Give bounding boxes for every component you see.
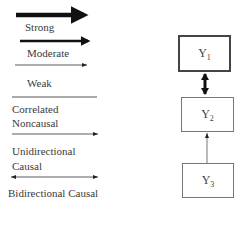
legend-label-correlated: Correlated — [12, 103, 58, 116]
node-y3-label: Y3 — [202, 173, 215, 189]
node-y2: Y2 — [181, 97, 234, 132]
legend-label-moderate: Moderate — [27, 47, 69, 60]
legend-label-causal: Causal — [12, 160, 42, 173]
legend-label-unidirectional: Unidirectional — [12, 145, 76, 158]
legend-label-noncausal: Noncausal — [12, 117, 58, 130]
legend-label-weak: Weak — [27, 77, 52, 90]
node-y2-label: Y2 — [201, 107, 214, 123]
legend-label-bidirectional: Bidirectional Causal — [8, 187, 98, 200]
legend-label-strong: Strong — [25, 21, 54, 34]
node-y1: Y1 — [178, 35, 231, 72]
node-y1-label: Y1 — [198, 46, 211, 62]
node-y3: Y3 — [182, 163, 234, 198]
